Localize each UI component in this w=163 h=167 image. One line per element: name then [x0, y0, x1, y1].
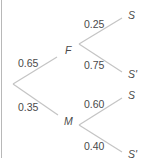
leaf-m-s: S [128, 90, 135, 101]
prob-f-s: 0.25 [84, 19, 104, 30]
prob-f-s-prime: 0.75 [84, 60, 104, 71]
prob-root-m: 0.35 [18, 102, 38, 113]
node-m: M [64, 116, 73, 127]
prob-m-s-prime: 0.40 [84, 141, 104, 152]
leaf-f-s: S [128, 10, 135, 21]
leaf-m-s-prime: S' [128, 149, 137, 160]
node-f: F [65, 45, 71, 56]
prob-root-f: 0.65 [18, 58, 38, 69]
prob-m-s: 0.60 [84, 99, 104, 110]
tree-lines [0, 0, 163, 167]
leaf-f-s-prime: S' [128, 69, 137, 80]
